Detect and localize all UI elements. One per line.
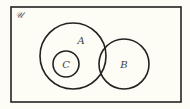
universal-set-rectangle bbox=[11, 7, 181, 102]
set-a-label: A bbox=[76, 35, 84, 46]
set-b-label: B bbox=[119, 59, 127, 70]
set-c-label: C bbox=[62, 59, 70, 70]
set-a-circle bbox=[40, 23, 106, 89]
venn-diagram: 𝒰 A B C bbox=[0, 0, 190, 109]
universal-set-label: 𝒰 bbox=[15, 10, 26, 20]
